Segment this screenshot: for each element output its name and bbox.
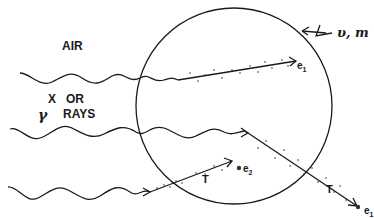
rays-label: RAYS bbox=[63, 107, 95, 121]
electron-e1-bottom-dot bbox=[356, 205, 360, 209]
track-label-t-bottom: T bbox=[326, 183, 333, 195]
electron-track-1 bbox=[178, 61, 296, 80]
electron-e2-dot bbox=[237, 166, 241, 170]
air-label: AIR bbox=[62, 39, 83, 53]
ionization-dots-3 bbox=[257, 140, 347, 201]
photon-wave-3 bbox=[8, 187, 150, 199]
electron-track-2 bbox=[150, 161, 232, 192]
sphere-params-label: υ, m bbox=[337, 25, 369, 40]
sphere-volume bbox=[136, 8, 332, 204]
gamma-symbol: γ bbox=[38, 107, 48, 123]
sphere-pointer-arrow bbox=[302, 25, 332, 36]
electron-e1-bottom-label: e1 bbox=[364, 205, 374, 218]
photon-arrowhead-2 bbox=[241, 128, 248, 137]
photon-wave-1 bbox=[20, 73, 178, 83]
electron-e1-top-label: e1 bbox=[297, 60, 307, 73]
photon-wave-2 bbox=[10, 126, 248, 138]
electron-track-3 bbox=[248, 133, 357, 206]
xray-label: X OR bbox=[48, 92, 84, 106]
electron-e2-label: e2 bbox=[243, 163, 253, 176]
diagram-canvas: υ, m AIR X OR γ RAYS e1 T e1 bbox=[0, 0, 374, 218]
track-label-t-middle: T bbox=[202, 173, 209, 185]
